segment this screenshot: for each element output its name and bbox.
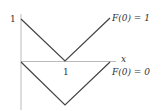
curve-label-f0-0: F(0) = 0 [111, 67, 150, 77]
x-axis-label: x [121, 54, 126, 64]
y-tick-label: 1 [10, 14, 16, 24]
diagram-canvas: 1 1 x F(0) = 1 F(0) = 0 [0, 0, 162, 111]
x-tick-label: 1 [63, 67, 69, 77]
curve-f0-equals-1 [21, 18, 110, 61]
curve-label-f0-1: F(0) = 1 [111, 13, 150, 23]
